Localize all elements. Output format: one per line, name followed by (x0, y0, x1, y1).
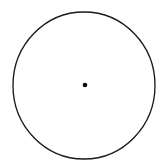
center-point-dot (83, 83, 88, 88)
figure-canvas: Circle with marked center (0, 0, 165, 167)
circle-diagram (0, 0, 165, 167)
